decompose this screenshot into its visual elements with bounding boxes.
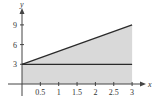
shaded-region (22, 25, 132, 84)
x-axis-label: x (147, 80, 152, 89)
x-tick-label: 2 (93, 88, 97, 97)
x-axis-arrow-icon (140, 82, 146, 87)
x-tick-label: 3 (130, 88, 134, 97)
x-tick-label: 0.5 (35, 88, 45, 97)
x-tick-label: 2.5 (109, 88, 119, 97)
y-tick-label: 9 (13, 21, 17, 30)
y-tick-label: 6 (13, 41, 17, 50)
y-tick-label: 3 (13, 60, 17, 69)
area-chart: x y 0.511.522.53 369 (0, 0, 155, 105)
x-tick-label: 1.5 (72, 88, 82, 97)
chart-svg: x y 0.511.522.53 369 (0, 0, 155, 105)
x-tick-label: 1 (57, 88, 61, 97)
y-axis-label: y (19, 0, 24, 9)
